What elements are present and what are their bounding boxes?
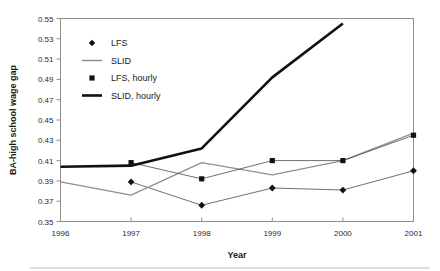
diamond-marker-icon — [89, 40, 95, 46]
y-tick-label: 0.45 — [38, 116, 54, 125]
chart-legend: LFSSLIDLFS, hourlySLID, hourly — [82, 38, 161, 101]
square-marker-icon — [89, 75, 94, 80]
y-tick-label: 0.51 — [38, 55, 54, 64]
series-layer — [61, 24, 417, 209]
legend-label: SLID — [111, 56, 132, 66]
diamond-marker-icon — [340, 187, 347, 194]
series-line-slid — [61, 133, 414, 195]
x-tick-label: 1999 — [263, 229, 281, 238]
x-tick-label: 1996 — [52, 229, 70, 238]
series-line-slid-hourly — [61, 24, 343, 167]
legend-label: LFS — [111, 38, 128, 48]
y-axis-ticks: 0.550.530.510.490.470.450.430.410.390.37… — [38, 15, 61, 227]
y-tick-label: 0.37 — [38, 197, 54, 206]
legend-label: SLID, hourly — [111, 91, 161, 101]
square-marker-icon — [199, 176, 204, 181]
plot-area-frame — [61, 19, 414, 222]
legend-entry: LFS, hourly — [89, 73, 157, 83]
y-tick-label: 0.53 — [38, 35, 54, 44]
legend-entry: SLID — [82, 56, 132, 66]
legend-entry: SLID, hourly — [82, 91, 161, 101]
y-tick-label: 0.55 — [38, 15, 54, 24]
x-axis-title: Year — [227, 250, 247, 260]
x-tick-label: 1997 — [122, 229, 140, 238]
y-tick-label: 0.49 — [38, 75, 54, 84]
square-marker-icon — [270, 158, 275, 163]
y-tick-label: 0.47 — [38, 96, 54, 105]
y-tick-label: 0.39 — [38, 177, 54, 186]
y-tick-label: 0.43 — [38, 136, 54, 145]
diamond-marker-icon — [410, 167, 417, 174]
square-marker-icon — [340, 158, 345, 163]
chart-figure: 0.550.530.510.490.470.450.430.410.390.37… — [0, 0, 440, 271]
x-tick-label: 2001 — [405, 229, 423, 238]
x-tick-label: 2000 — [334, 229, 352, 238]
y-axis-title: BA-high school wage gap — [8, 65, 18, 176]
y-tick-label: 0.41 — [38, 157, 54, 166]
diamond-marker-icon — [128, 179, 135, 186]
diamond-marker-icon — [198, 202, 205, 209]
x-axis-ticks: 199619971998199920002001 — [52, 218, 423, 238]
legend-label: LFS, hourly — [111, 73, 158, 83]
legend-entry: LFS — [89, 38, 128, 48]
square-marker-icon — [411, 133, 416, 138]
series-line-lfs-hourly — [131, 135, 413, 179]
diamond-marker-icon — [269, 185, 276, 192]
x-tick-label: 1998 — [193, 229, 211, 238]
y-tick-label: 0.35 — [38, 218, 54, 227]
